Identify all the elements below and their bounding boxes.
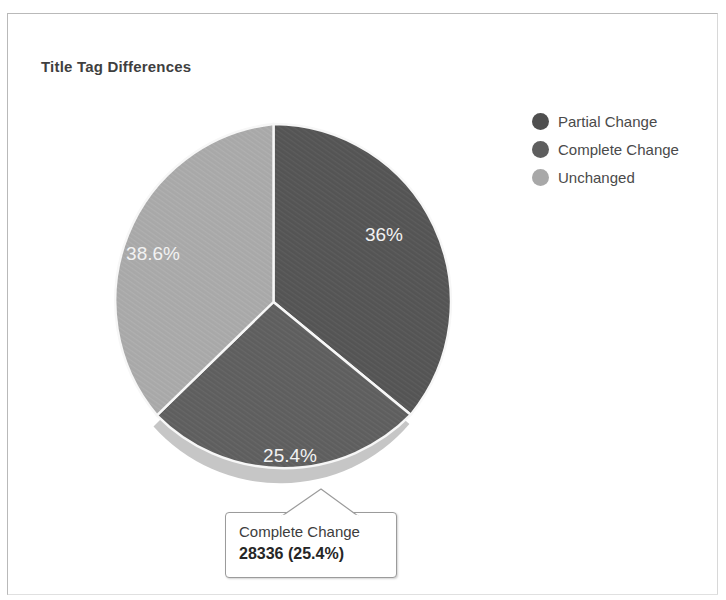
legend-swatch-unchanged-icon — [532, 169, 549, 186]
tooltip-title: Complete Change — [239, 521, 396, 542]
slice-label-complete-change: 25.4% — [263, 445, 317, 466]
slice-label-unchanged: 38.6% — [126, 243, 180, 264]
legend-label-complete-change: Complete Change — [558, 141, 679, 158]
legend-item-unchanged[interactable]: Unchanged — [532, 164, 712, 190]
page-title: Title Tag Differences — [41, 58, 191, 75]
tooltip-callout[interactable]: Complete Change 28336 (25.4%) — [225, 512, 397, 578]
bottom-divider — [8, 594, 718, 595]
legend-label-partial-change: Partial Change — [558, 113, 657, 130]
legend-label-unchanged: Unchanged — [558, 169, 635, 186]
tooltip-leader-line — [280, 483, 360, 517]
pie-chart: 36% 25.4% 38.6% — [60, 95, 500, 515]
legend-item-partial-change[interactable]: Partial Change — [532, 108, 712, 134]
slice-label-partial-change: 36% — [365, 224, 403, 245]
chart-legend: Partial Change Complete Change Unchanged — [532, 108, 712, 192]
tooltip-value: 28336 (25.4%) — [239, 542, 396, 565]
legend-item-complete-change[interactable]: Complete Change — [532, 136, 712, 162]
legend-swatch-partial-change-icon — [532, 113, 549, 130]
legend-swatch-complete-change-icon — [532, 141, 549, 158]
chart-panel: Title Tag Differences — [0, 0, 726, 600]
pie-chart-svg: 36% 25.4% 38.6% — [60, 95, 500, 515]
